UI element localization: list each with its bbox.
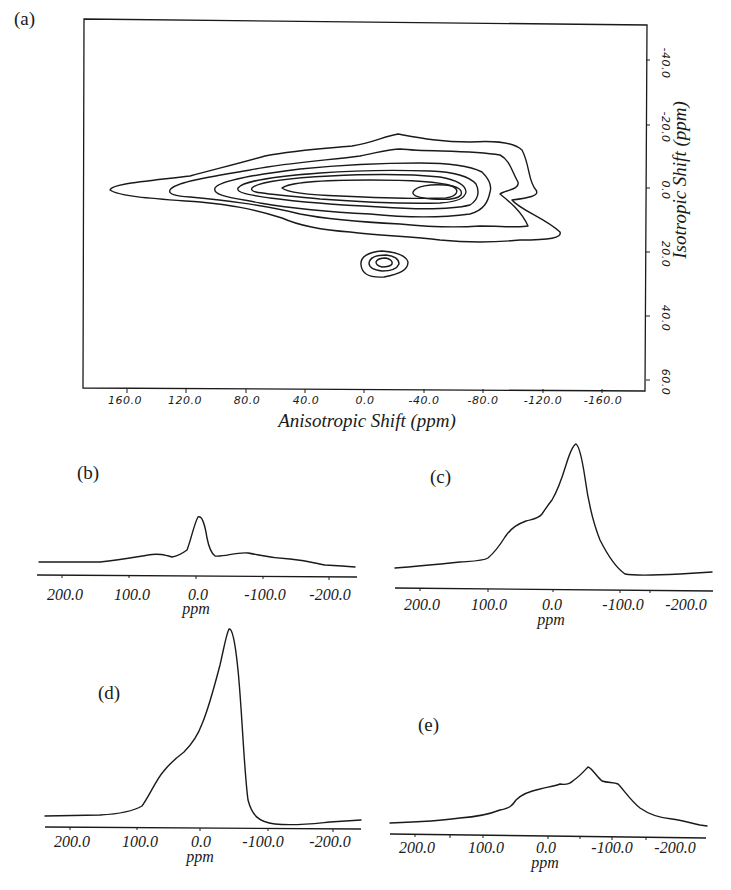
x-tick-label: -200.0 bbox=[309, 586, 350, 603]
panel-b-spectrum: 200.0 100.0 0.0 -100.0 -200.0 ppm bbox=[37, 517, 357, 618]
spectrum-line-e bbox=[390, 767, 707, 826]
y-tick-label: 40.0 bbox=[659, 305, 672, 332]
y-tick-label: 60.0 bbox=[659, 369, 672, 396]
x-tick-label: -100.0 bbox=[242, 833, 283, 850]
x-tick-label: 100.0 bbox=[122, 833, 158, 850]
x-tick-label: 100.0 bbox=[114, 586, 150, 603]
x-tick-label: 100.0 bbox=[468, 839, 504, 856]
panel-c-spectrum: 200.0 100.0 0.0 -100.0 -200.0 ppm bbox=[395, 444, 713, 629]
x-tick-label: -100.0 bbox=[591, 839, 632, 856]
contour-lines-minor-peak bbox=[361, 251, 408, 277]
x-tick-label: 0.0 bbox=[356, 394, 375, 407]
x-axis-title-c: ppm bbox=[536, 611, 565, 629]
x-tick-label: -100.0 bbox=[244, 586, 285, 603]
x-tick-label: 100.0 bbox=[471, 596, 507, 613]
figure-canvas: 160.0 120.0 80.0 40.0 0.0 -40.0 -80.0 -1… bbox=[0, 0, 731, 890]
x-tick-label: -200.0 bbox=[309, 833, 350, 850]
panel-e-spectrum: 200.0 100.0 0.0 -100.0 -200.0 ppm bbox=[390, 767, 707, 872]
panel-a-contour-plot: 160.0 120.0 80.0 40.0 0.0 -40.0 -80.0 -1… bbox=[83, 19, 691, 432]
x-tick-label: 80.0 bbox=[234, 394, 261, 407]
spectrum-line-d bbox=[45, 629, 361, 825]
x-tick-label: 200.0 bbox=[404, 596, 440, 613]
x-tick-label: -200.0 bbox=[665, 596, 706, 613]
x-tick-label: -40.0 bbox=[409, 394, 440, 407]
x-tick-label: 200.0 bbox=[399, 839, 435, 856]
panel-d-spectrum: 200.0 100.0 0.0 -100.0 -200.0 ppm bbox=[45, 629, 361, 866]
spectrum-line-b bbox=[39, 517, 355, 567]
contour-lines-main bbox=[110, 134, 560, 242]
x-tick-label: -200.0 bbox=[654, 839, 695, 856]
x-axis-line bbox=[37, 575, 357, 577]
x-tick-label: 200.0 bbox=[54, 833, 90, 850]
x-tick-label: 40.0 bbox=[293, 394, 320, 407]
x-axis-title: Anisotropic Shift (ppm) bbox=[276, 410, 456, 432]
plot-frame bbox=[83, 19, 647, 391]
x-axis-line bbox=[45, 827, 361, 829]
x-axis-tick-labels: 160.0 120.0 80.0 40.0 0.0 -40.0 -80.0 -1… bbox=[108, 394, 622, 407]
x-tick-label: -160.0 bbox=[584, 394, 622, 407]
x-tick-label: 120.0 bbox=[168, 394, 202, 407]
x-tick-label: -120.0 bbox=[524, 394, 562, 407]
x-tick-label: 200.0 bbox=[47, 586, 83, 603]
y-tick-label: -40.0 bbox=[659, 48, 672, 79]
x-tick-label: -100.0 bbox=[602, 596, 643, 613]
x-axis-line bbox=[395, 588, 713, 591]
y-axis-title: Isotropic Shift (ppm) bbox=[669, 101, 691, 260]
x-axis-title-d: ppm bbox=[185, 848, 214, 866]
x-axis-title-b: ppm bbox=[181, 600, 210, 618]
x-tick-label: 160.0 bbox=[108, 394, 142, 407]
spectrum-line-c bbox=[395, 444, 712, 575]
x-tick-label: -80.0 bbox=[468, 394, 499, 407]
x-axis-title-e: ppm bbox=[530, 854, 559, 872]
